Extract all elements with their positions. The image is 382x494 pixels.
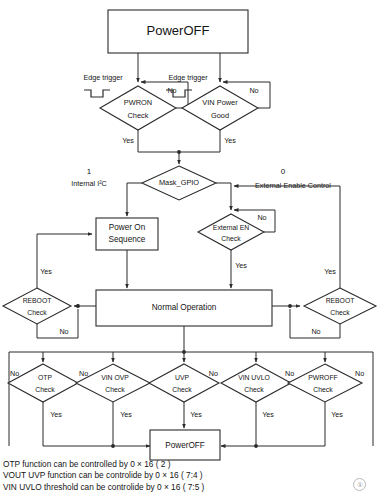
label-yes-vin-ovp: Yes	[120, 410, 132, 419]
node-pwroff-check-label-line2: Check	[313, 386, 333, 393]
conn-vinpg-yes	[179, 130, 220, 152]
label-no-pwroff: No	[355, 369, 364, 378]
node-vin-ovp-check-label-line2: Check	[105, 386, 125, 393]
conn-mask-to-externalen	[216, 183, 231, 210]
label-no-external-en: No	[257, 213, 266, 222]
node-vin-uvlo-check	[221, 364, 291, 402]
label-no-vinpg: No	[249, 86, 258, 95]
node-power-on-sequence-label-line1: Power On	[109, 223, 146, 232]
label-yes-vinpg: Yes	[224, 136, 236, 145]
label-yes-vin-uvlo: Yes	[262, 410, 274, 419]
node-reboot-check-right-label-line2: Check	[330, 309, 350, 316]
page-number-mark: ①	[353, 478, 366, 491]
conn-otp-yes	[43, 402, 150, 446]
label-mask-one: 1	[87, 167, 92, 176]
node-pwron-check-label-line2: Check	[128, 111, 149, 120]
conn-pwron-yes	[138, 130, 179, 152]
node-mask-gpio-label: Mask_GPIO	[159, 178, 199, 187]
node-reboot-check-right-label-line1: REBOOT	[326, 297, 355, 304]
node-pwroff-check-label-line1: PWROFF	[308, 374, 337, 381]
label-yes-uvp: Yes	[190, 410, 202, 419]
label-yes-otp: Yes	[50, 410, 62, 419]
node-reboot-check-left-label-line2: Check	[27, 309, 47, 316]
label-yes-pwroff: Yes	[331, 410, 343, 419]
label-yes-external-en: Yes	[235, 261, 247, 270]
label-no-otp: No	[10, 369, 19, 378]
label-no-uvp: No	[209, 369, 218, 378]
note-line-vin-uvlo: VIN UVLO threshold can be controlide by …	[3, 482, 303, 493]
label-internal-i2c: Internal I²C	[71, 179, 107, 188]
node-vin-uvlo-check-label-line2: Check	[244, 386, 264, 393]
note-line-vout-uvp: VOUT UVP function can be controlide by 0…	[3, 470, 303, 481]
conn-mask-to-poweronseq	[127, 183, 142, 216]
label-no-reboot-right: No	[311, 327, 320, 336]
label-mask-zero: 0	[281, 167, 286, 176]
label-no-vin-ovp: No	[79, 369, 88, 378]
node-pwroff-check	[288, 364, 362, 402]
node-normal-operation-label: Normal Operation	[152, 303, 217, 312]
label-edge-trigger-right: Edge trigger	[168, 73, 208, 82]
node-external-en-check-label-line1: External EN	[213, 224, 249, 231]
node-reboot-check-right	[304, 288, 376, 324]
node-vin-ovp-check-label-line1: VIN OVP	[101, 374, 129, 381]
node-vin-power-good	[182, 86, 258, 130]
label-yes-reboot-right: Yes	[324, 267, 336, 276]
note-line-otp: OTP function can be controlled by 0 × 16…	[3, 459, 303, 470]
label-yes-reboot-left: Yes	[40, 267, 52, 276]
node-pwron-check	[100, 86, 176, 130]
edge-trigger-waveform-left-icon	[84, 90, 110, 97]
node-otp-check-label-line1: OTP	[38, 374, 52, 381]
label-edge-trigger-left: Edge trigger	[83, 73, 123, 82]
node-external-en-check	[198, 214, 264, 250]
node-vin-power-good-label-line1: VIN Power	[202, 98, 238, 107]
junction-vinovp-bottom	[111, 444, 115, 448]
label-no-vin-uvlo: No	[285, 369, 294, 378]
conn-reboot-left-yes	[37, 234, 92, 288]
node-power-off-bottom-label: PowerOFF	[165, 441, 205, 450]
node-reboot-check-left	[3, 288, 71, 324]
notes-block: OTP function can be controlled by 0 × 16…	[3, 459, 303, 493]
label-yes-pwron: Yes	[122, 136, 134, 145]
node-uvp-check-label-line2: Check	[172, 386, 192, 393]
conn-pwroff-yes	[221, 402, 325, 446]
node-uvp-check-label-line1: UVP	[175, 374, 189, 381]
node-power-off-top-label: PowerOFF	[147, 23, 210, 38]
label-no-reboot-left: No	[59, 327, 68, 336]
node-vin-uvlo-check-label-line1: VIN UVLO	[238, 374, 270, 381]
node-external-en-check-label-line2: Check	[221, 235, 241, 242]
node-reboot-check-left-label-line1: REBOOT	[23, 297, 52, 304]
flowchart-canvas: PowerOFF PWRON Check Edge trigger No Yes…	[0, 0, 382, 494]
power-state-flowchart: PowerOFF PWRON Check Edge trigger No Yes…	[0, 0, 382, 494]
node-otp-check-label-line2: Check	[35, 386, 55, 393]
label-external-enable-control: External Enable Control	[255, 181, 331, 190]
node-pwron-check-label-line1: PWRON	[124, 98, 152, 107]
node-vin-power-good-label-line2: Good	[211, 111, 229, 120]
node-power-on-sequence-label-line2: Sequence	[109, 235, 146, 244]
